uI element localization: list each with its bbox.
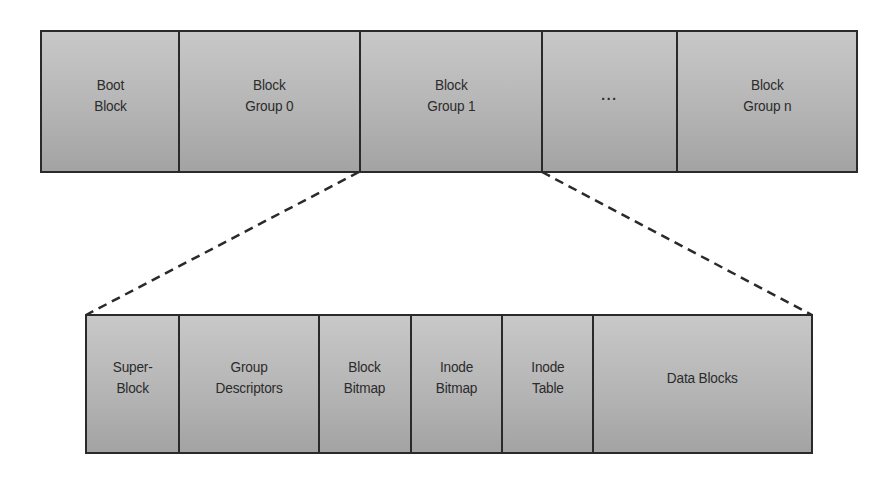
superblock-label: Super- Block — [113, 356, 153, 398]
block-group-detail-row: Super- Block Group Descriptors Block Bit… — [85, 314, 813, 454]
left-dashed-line — [86, 172, 359, 315]
right-dashed-line — [542, 172, 812, 315]
boot-block-label: Boot Block — [94, 74, 126, 116]
inode-bitmap-label: Inode Bitmap — [436, 356, 477, 398]
block-groups-row: Boot Block Block Group 0 Block Group 1 .… — [40, 30, 858, 173]
inode-table-cell: Inode Table — [503, 316, 594, 452]
group-descriptors-cell: Group Descriptors — [180, 316, 320, 452]
block-bitmap-cell: Block Bitmap — [320, 316, 412, 452]
block-group-0-cell: Block Group 0 — [180, 32, 361, 171]
inode-bitmap-cell: Inode Bitmap — [412, 316, 503, 452]
group-descriptors-label: Group Descriptors — [215, 356, 282, 398]
block-group-1-cell: Block Group 1 — [361, 32, 543, 171]
block-group-1-label: Block Group 1 — [427, 74, 475, 116]
block-group-n-label: Block Group n — [743, 74, 791, 116]
boot-block-cell: Boot Block — [42, 32, 180, 171]
block-group-n-cell: Block Group n — [678, 32, 856, 171]
ellipsis-label: ... — [601, 84, 618, 105]
block-group-0-label: Block Group 0 — [245, 74, 293, 116]
data-blocks-label: Data Blocks — [667, 367, 738, 388]
inode-table-label: Inode Table — [531, 356, 564, 398]
block-bitmap-label: Block Bitmap — [344, 356, 385, 398]
data-blocks-cell: Data Blocks — [594, 316, 811, 452]
superblock-cell: Super- Block — [87, 316, 180, 452]
ellipsis-cell: ... — [543, 32, 678, 171]
